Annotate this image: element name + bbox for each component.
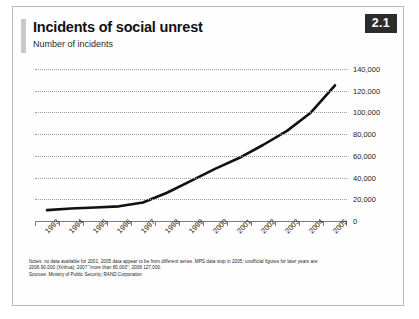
chart-footnotes: Notes: no data available for 2001; 2005 … bbox=[29, 259, 377, 279]
note-sources: Sources: Ministry of Public Security; RA… bbox=[29, 272, 377, 278]
y-axis-tick-label: 140,000 bbox=[353, 65, 380, 74]
gridline bbox=[35, 134, 347, 135]
y-axis-tick-label: 0 bbox=[353, 217, 357, 226]
chart-canvas: 020,00040,00060,00080,000100,000120,0001… bbox=[35, 69, 347, 221]
gridline bbox=[35, 178, 347, 179]
y-axis-tick-label: 100,000 bbox=[353, 108, 380, 117]
data-series-line bbox=[35, 69, 347, 221]
page-title: Incidents of social unrest bbox=[33, 19, 203, 35]
gridline bbox=[35, 91, 347, 92]
y-axis-tick-label: 40,000 bbox=[353, 173, 376, 182]
chart-plot-area: 020,00040,00060,00080,000100,000120,0001… bbox=[35, 69, 387, 237]
y-axis-tick-label: 120,000 bbox=[353, 86, 380, 95]
note-line-2: 2006 90,000 (Xinhua); 2007 "more than 80… bbox=[29, 265, 377, 271]
gridline bbox=[35, 69, 347, 70]
chart-subtitle: Number of incidents bbox=[33, 39, 113, 49]
x-axis-tick bbox=[35, 221, 36, 226]
title-accent-bar bbox=[21, 19, 26, 53]
figure-number-badge: 2.1 bbox=[365, 14, 397, 33]
gridline bbox=[35, 112, 347, 113]
gridline bbox=[35, 199, 347, 200]
y-axis-tick-label: 80,000 bbox=[353, 130, 376, 139]
gridline bbox=[35, 156, 347, 157]
y-axis-tick-label: 20,000 bbox=[353, 195, 376, 204]
y-axis-tick-label: 60,000 bbox=[353, 151, 376, 160]
report-page: Incidents of social unrest Number of inc… bbox=[12, 6, 404, 306]
chart-header: Incidents of social unrest Number of inc… bbox=[13, 7, 403, 63]
